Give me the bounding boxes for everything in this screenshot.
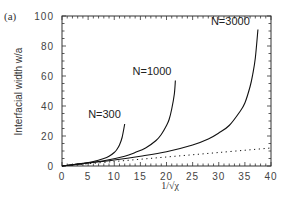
tick-labels: 0510152025303540020406080100	[34, 11, 277, 182]
y-tick-label: 100	[34, 11, 54, 22]
x-tick-label: 40	[264, 171, 277, 182]
x-tick-label: 30	[212, 171, 225, 182]
x-tick-label: 15	[134, 171, 147, 182]
x-tick-label: 10	[108, 171, 121, 182]
curve-annotations: N=300N=1000N=3000	[88, 15, 250, 120]
plot-frame	[62, 16, 271, 166]
y-tick-label: 40	[41, 101, 54, 112]
panel-label: (a)	[4, 10, 16, 22]
curve-label: N=1000	[133, 65, 172, 77]
curve-label: N=3000	[211, 15, 250, 27]
axis-ticks	[62, 16, 271, 166]
series-n-3000	[62, 30, 258, 167]
y-tick-label: 20	[41, 131, 54, 142]
x-tick-label: 0	[59, 171, 66, 182]
x-axis-label: 1/√χ	[150, 180, 190, 191]
y-tick-label: 80	[41, 41, 54, 52]
chart-canvas: 0510152025303540020406080100 N=300N=1000…	[0, 0, 292, 208]
curve-label: N=300	[88, 108, 121, 120]
y-axis-label: Interfacial width w/a	[13, 42, 24, 142]
x-tick-label: 35	[238, 171, 251, 182]
y-tick-label: 60	[41, 71, 54, 82]
x-tick-label: 5	[85, 171, 92, 182]
y-tick-label: 0	[47, 161, 54, 172]
plot-border	[62, 16, 271, 166]
data-series	[62, 30, 271, 167]
